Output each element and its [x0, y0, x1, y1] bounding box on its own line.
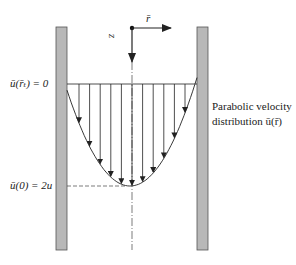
profile-caption-line1: Parabolic velocity	[212, 100, 292, 113]
r-axis-label: r̄	[146, 12, 150, 25]
left-wall	[56, 27, 67, 250]
z-axis-label: z	[106, 34, 119, 38]
right-wall	[197, 27, 208, 250]
velocity-arrows	[79, 84, 185, 185]
centerline-velocity-label: ū(0) = 2u	[10, 179, 52, 192]
profile-caption-line2: distribution ū(r̄)	[212, 115, 282, 128]
pipe-flow-diagram	[0, 0, 296, 265]
wall-condition-label: ū(r̄ₜ) = 0	[10, 77, 48, 90]
